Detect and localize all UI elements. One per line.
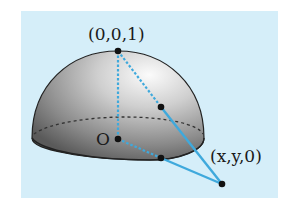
north-pole-point [115, 48, 122, 55]
north-pole-label: (0,0,1) [88, 26, 145, 43]
plane-point [219, 181, 226, 188]
hemisphere-diagram [0, 0, 304, 211]
equator-point [158, 155, 165, 162]
sphere-point [158, 104, 165, 111]
origin-point [115, 136, 122, 143]
plane-point-label: (x,y,0) [210, 148, 262, 165]
origin-label: O [96, 131, 110, 148]
